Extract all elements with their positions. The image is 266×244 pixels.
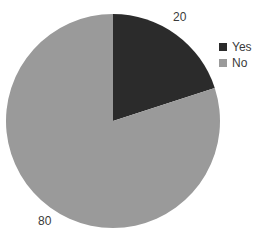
legend-swatch-no-icon — [219, 59, 227, 67]
pie-chart-canvas — [0, 0, 266, 244]
legend-label-yes: Yes — [232, 41, 252, 53]
legend-item-yes[interactable]: Yes — [219, 41, 252, 53]
legend-item-no[interactable]: No — [219, 57, 252, 69]
legend-label-no: No — [232, 57, 247, 69]
pie-chart-figure: 20 80 Yes No — [0, 0, 266, 244]
pie-data-label-no: 80 — [38, 215, 51, 227]
pie-data-label-yes: 20 — [173, 11, 186, 23]
chart-legend: Yes No — [219, 41, 252, 69]
legend-swatch-yes-icon — [219, 43, 227, 51]
